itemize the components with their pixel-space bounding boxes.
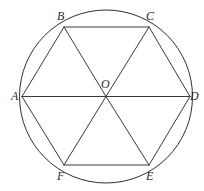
radius-of: [64, 97, 106, 166]
geometry-figure: ABCDEFO: [0, 0, 204, 191]
vertex-label-d: D: [190, 90, 199, 102]
center-label-o: O: [101, 78, 110, 90]
radii-group: [22, 27, 190, 165]
radius-oc: [106, 27, 149, 97]
vertex-label-e: E: [146, 170, 153, 182]
vertex-label-f: F: [57, 170, 64, 182]
geometry-canvas: [0, 0, 204, 191]
hexagon-edge-fa: [22, 97, 64, 166]
vertex-label-a: A: [11, 90, 18, 102]
vertex-label-b: B: [57, 10, 64, 22]
radius-ob: [64, 27, 106, 97]
radius-oe: [106, 97, 149, 166]
vertex-label-c: C: [146, 10, 154, 22]
